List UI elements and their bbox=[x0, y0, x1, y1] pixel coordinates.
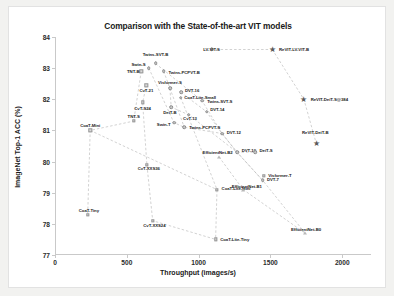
y-tick-label: 79 bbox=[43, 189, 50, 196]
x-tick-label: 1500 bbox=[263, 259, 278, 266]
data-point-marker[interactable] bbox=[139, 70, 142, 73]
data-point-label: Twins-SVT-B bbox=[143, 52, 168, 57]
data-point-marker[interactable] bbox=[253, 150, 257, 154]
y-tick-label: 84 bbox=[43, 34, 50, 41]
data-point-marker[interactable] bbox=[200, 99, 204, 103]
y-tick-mark bbox=[52, 224, 55, 225]
data-point-marker[interactable] bbox=[262, 174, 265, 177]
data-point-marker[interactable] bbox=[217, 155, 221, 158]
data-point-label: DVT-16 bbox=[185, 87, 199, 92]
data-point-marker[interactable] bbox=[86, 213, 89, 216]
x-tick-label: 0 bbox=[53, 259, 57, 266]
data-point-label: TNT-B bbox=[127, 69, 139, 74]
data-point-marker[interactable] bbox=[235, 150, 239, 154]
chart-card: Comparison with the State-of-the-art VIT… bbox=[8, 6, 386, 288]
data-point-marker[interactable]: ★ bbox=[300, 96, 307, 103]
y-tick-mark bbox=[52, 37, 55, 38]
x-tick-label: 1000 bbox=[191, 259, 206, 266]
data-point-marker[interactable] bbox=[147, 66, 151, 70]
data-point-marker[interactable] bbox=[214, 238, 217, 241]
y-tick-label: 77 bbox=[43, 252, 50, 259]
data-point-marker[interactable]: ★ bbox=[313, 139, 320, 146]
data-point-label: Twins-PCPVT-B bbox=[168, 69, 199, 74]
trend-line bbox=[143, 85, 216, 239]
data-point-label: Swin-S bbox=[131, 62, 145, 67]
data-point-marker[interactable] bbox=[261, 178, 265, 182]
y-tick-label: 83 bbox=[43, 65, 50, 72]
data-point-marker[interactable] bbox=[179, 91, 183, 95]
data-point-marker[interactable] bbox=[132, 119, 135, 122]
data-point-label: TNT-S bbox=[128, 114, 140, 119]
data-point-label: ReVIT-DeiT-B bbox=[302, 129, 328, 134]
x-tick-label: 2000 bbox=[335, 259, 350, 266]
x-tick-label: 500 bbox=[121, 259, 132, 266]
data-point-label: CvT-S24 bbox=[134, 106, 151, 111]
screenshot-frame: Comparison with the State-of-the-art VIT… bbox=[0, 0, 394, 296]
x-tick-mark bbox=[270, 255, 271, 258]
plot-area: 7778798081828384 0500100015002000 ★ReVIT… bbox=[55, 37, 371, 255]
data-point-label: CvT-XXS24 bbox=[143, 222, 165, 227]
data-point-label: CoaT-Tiny bbox=[79, 207, 99, 212]
data-point-label: Visformer-S bbox=[158, 80, 182, 85]
data-point-label: Visformer-T bbox=[268, 172, 292, 177]
y-tick-label: 82 bbox=[43, 96, 50, 103]
y-tick-label: 81 bbox=[43, 127, 50, 134]
data-point-label: Twins-SVT-S bbox=[207, 98, 232, 103]
data-point-marker[interactable] bbox=[220, 132, 224, 136]
y-tick-label: 80 bbox=[43, 158, 50, 165]
x-tick-mark bbox=[199, 255, 200, 258]
y-tick-mark bbox=[52, 162, 55, 163]
data-point-label: ReVIT-DeiT-S@384 bbox=[311, 97, 348, 102]
data-point-label: CoaT-Mini bbox=[80, 122, 100, 127]
data-point-marker[interactable]: ★ bbox=[269, 46, 276, 53]
y-tick-mark bbox=[52, 193, 55, 194]
data-point-label: Twins-PCPVT-S bbox=[189, 124, 220, 129]
data-point-marker[interactable] bbox=[154, 62, 158, 66]
data-point-label: DeiT-S bbox=[260, 147, 273, 152]
data-point-label: LV-VIT-S bbox=[203, 47, 220, 52]
data-point-label: CoaT-Lite-Tiny bbox=[220, 236, 249, 241]
x-tick-mark bbox=[127, 255, 128, 258]
data-point-label: CvT-13 bbox=[183, 115, 197, 120]
trend-curves bbox=[55, 37, 371, 255]
data-point-label: ReVIT-LV-VIT-B bbox=[279, 47, 309, 52]
data-point-marker[interactable] bbox=[303, 232, 307, 235]
data-point-marker[interactable] bbox=[88, 129, 91, 132]
x-axis-label: Throughput (images/s) bbox=[9, 269, 387, 276]
data-point-label: EfficientNet-B1 bbox=[232, 184, 262, 189]
chart-title: Comparison with the State-of-the-art VIT… bbox=[9, 21, 387, 31]
trend-line bbox=[90, 130, 217, 189]
data-point-label: EfficientNet-B0 bbox=[291, 227, 321, 232]
y-tick-mark bbox=[52, 99, 55, 100]
data-point-marker[interactable] bbox=[162, 69, 166, 73]
data-point-marker[interactable] bbox=[182, 126, 186, 130]
data-point-label: CvT-21 bbox=[139, 87, 153, 92]
data-point-label: CvT-XXS36 bbox=[138, 165, 160, 170]
data-point-marker[interactable] bbox=[215, 188, 218, 191]
data-point-label: EfficientNet-B2 bbox=[203, 150, 233, 155]
data-point-marker[interactable] bbox=[205, 110, 209, 114]
data-point-label: Swin-T bbox=[157, 122, 171, 127]
x-tick-mark bbox=[55, 255, 56, 258]
trend-line bbox=[88, 71, 142, 214]
data-point-marker[interactable] bbox=[141, 101, 144, 104]
trend-line bbox=[156, 64, 306, 234]
trend-line bbox=[219, 157, 305, 233]
data-point-label: DVT-12 bbox=[227, 129, 241, 134]
data-point-marker[interactable] bbox=[172, 121, 176, 125]
data-point-marker[interactable] bbox=[179, 96, 183, 100]
data-point-marker[interactable] bbox=[168, 87, 172, 91]
y-tick-mark bbox=[52, 130, 55, 131]
x-tick-mark bbox=[342, 255, 343, 258]
y-axis-label: ImageNet Top-1 ACC (%) bbox=[14, 106, 21, 188]
y-tick-mark bbox=[52, 68, 55, 69]
data-point-label: DeiT-B bbox=[163, 109, 176, 114]
y-tick-label: 78 bbox=[43, 220, 50, 227]
data-point-marker[interactable] bbox=[145, 84, 148, 87]
data-point-label: DVT-14 bbox=[210, 107, 224, 112]
